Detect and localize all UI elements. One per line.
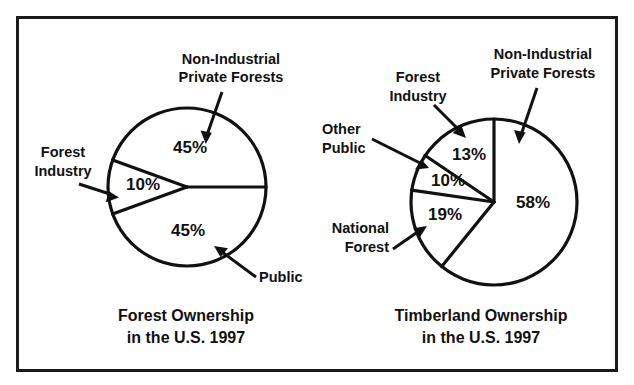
figure-container: 45% 10% 45% Non-Industrial Private Fores… (0, 0, 634, 385)
right-pct-other-public: 10% (431, 171, 465, 190)
right-pct-nipf: 58% (516, 193, 550, 212)
right-callout-fi-line1: Forest (396, 69, 440, 85)
left-pct-nipf: 45% (173, 138, 207, 157)
right-callout-nf-line2: Forest (345, 239, 389, 255)
right-caption-line2: in the U.S. 1997 (422, 329, 540, 346)
right-callout-op-line1: Other (322, 121, 361, 137)
right-pct-national-forest: 19% (428, 205, 462, 224)
left-callout-fi-line2: Industry (34, 163, 91, 179)
left-caption-line2: in the U.S. 1997 (127, 329, 245, 346)
right-pct-forest-industry: 13% (452, 145, 486, 164)
left-pct-forest-industry: 10% (126, 175, 160, 194)
left-caption-line1: Forest Ownership (118, 307, 254, 324)
right-callout-op-line2: Public (322, 140, 366, 156)
right-callout-fi-line2: Industry (389, 88, 446, 104)
left-callout-nipf-line2: Private Forests (179, 69, 284, 85)
left-pct-public: 45% (171, 221, 205, 240)
right-callout-nf-line1: National (332, 220, 389, 236)
left-callout-nipf-line1: Non-Industrial (182, 51, 280, 67)
right-caption-line1: Timberland Ownership (394, 307, 567, 324)
right-callout-nipf-line2: Private Forests (491, 65, 596, 81)
right-callout-nipf-line1: Non-Industrial (494, 46, 592, 62)
left-callout-public: Public (259, 269, 303, 285)
forest-ownership-figure: 45% 10% 45% Non-Industrial Private Fores… (0, 0, 634, 385)
left-callout-fi-line1: Forest (41, 144, 85, 160)
